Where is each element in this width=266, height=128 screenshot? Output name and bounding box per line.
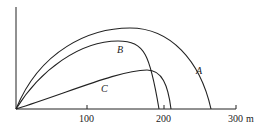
- curve-c: [16, 70, 171, 109]
- curve-b: [16, 41, 159, 109]
- trajectory-chart: [0, 0, 266, 128]
- curve-a-label: A: [196, 66, 202, 76]
- tick-label-100: 100: [79, 114, 94, 124]
- tick-label-300: 300: [228, 114, 243, 124]
- x-unit-label: m: [246, 114, 254, 124]
- curve-c-label: C: [101, 84, 108, 94]
- curve-a: [16, 28, 211, 109]
- curve-b-label: B: [117, 45, 123, 55]
- tick-label-200: 200: [156, 114, 171, 124]
